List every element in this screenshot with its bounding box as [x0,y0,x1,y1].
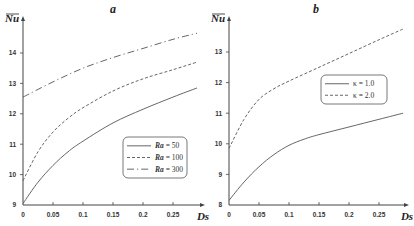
x-tick-label: 0.1 [284,211,293,218]
y-tick-label: 13 [215,48,223,55]
y-tick-label: 12 [215,79,223,86]
y-tick-label: 12 [9,110,17,117]
y-tick-label: 9 [12,201,16,208]
legend-label: Ra = 50 [154,141,179,150]
panel-title: a [110,2,116,16]
y-tick-label: 11 [9,141,16,148]
series-line-a-2 [23,33,197,97]
chart-panel-b: bNuDs00.050.10.150.20.258910111213κ = 1.… [210,2,413,222]
legend-label: Ra = 100 [154,153,183,162]
y-tick-label: 14 [9,49,17,56]
x-tick-label: 0.25 [167,211,180,218]
legend-label: Ra = 300 [154,165,183,174]
chart-panel-a: aNuDs00.050.10.150.20.2591011121314Ra = … [4,2,209,222]
y-tick-label: 8 [218,201,222,208]
y-tick-label: 9 [218,171,222,178]
x-axis-label: Ds [196,210,209,222]
x-tick-label: 0.05 [253,211,266,218]
x-tick-label: 0.05 [47,211,60,218]
x-tick-label: 0 [227,211,231,218]
y-tick-label: 13 [9,80,17,87]
panel-title: b [313,2,319,16]
y-tick-label: 11 [215,110,222,117]
x-tick-label: 0.15 [313,211,326,218]
x-axis-arrow-icon [200,203,205,207]
y-axis-arrow-icon [227,16,231,21]
x-axis-arrow-icon [404,203,409,207]
x-axis-label: Ds [400,210,413,222]
y-tick-label: 10 [9,171,17,178]
x-tick-label: 0.2 [344,211,353,218]
x-tick-label: 0.2 [138,211,147,218]
y-axis-arrow-icon [21,16,25,21]
y-tick-label: 10 [215,140,223,147]
figure: aNuDs00.050.10.150.20.2591011121314Ra = … [0,0,414,226]
x-tick-label: 0 [21,211,25,218]
series-line-b-0 [229,113,403,200]
legend-label: κ = 2.0 [353,91,374,100]
x-tick-label: 0.25 [373,211,386,218]
legend-label: κ = 1.0 [353,79,374,88]
x-tick-label: 0.1 [78,211,87,218]
x-tick-label: 0.15 [107,211,120,218]
